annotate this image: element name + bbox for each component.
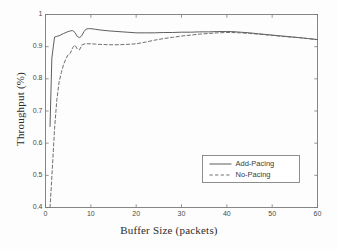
y-tick-label-0.8: 0.8: [21, 74, 43, 81]
x-tick-label-0: 0: [34, 210, 58, 217]
y-tick-label-0.7: 0.7: [21, 107, 43, 114]
legend-label-add-pacing: Add-Pacing: [236, 159, 275, 168]
x-axis-title: Buffer Size (packets): [0, 224, 338, 236]
y-tick-label-1: 1: [21, 10, 43, 17]
y-tick-label-0.5: 0.5: [21, 171, 43, 178]
x-tick-label-20: 20: [124, 210, 148, 217]
x-tick-label-30: 30: [170, 210, 194, 217]
y-tick-label-0.6: 0.6: [21, 139, 43, 146]
y-tick-label-0.4: 0.4: [21, 203, 43, 210]
legend-label-no-pacing: No-Pacing: [236, 170, 271, 179]
x-tick-label-50: 50: [260, 210, 284, 217]
x-tick-label-40: 40: [215, 210, 239, 217]
chart-figure: Buffer Size (packets) Throughput (%) 010…: [0, 0, 338, 249]
x-tick-label-10: 10: [79, 210, 103, 217]
y-tick-label-0.9: 0.9: [21, 42, 43, 49]
x-tick-label-60: 60: [306, 210, 330, 217]
